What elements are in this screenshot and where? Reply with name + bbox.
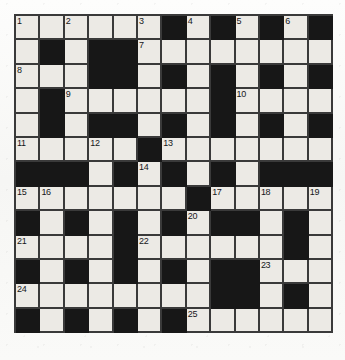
grid-cell-open[interactable]: 12 — [89, 138, 113, 162]
grid-cell-open[interactable]: 22 — [138, 236, 162, 260]
grid-cell-open[interactable] — [89, 284, 113, 308]
grid-cell-open[interactable] — [40, 138, 64, 162]
grid-cell-open[interactable] — [89, 236, 113, 260]
grid-cell-open[interactable] — [211, 309, 235, 333]
grid-cell-open[interactable]: 8 — [16, 65, 40, 89]
grid-cell-open[interactable] — [16, 114, 40, 138]
grid-cell-open[interactable] — [65, 40, 89, 64]
grid-cell-open[interactable] — [236, 187, 260, 211]
grid-cell-open[interactable]: 11 — [16, 138, 40, 162]
grid-cell-open[interactable] — [236, 114, 260, 138]
grid-cell-open[interactable] — [236, 309, 260, 333]
grid-cell-open[interactable]: 15 — [16, 187, 40, 211]
grid-cell-open[interactable] — [260, 138, 284, 162]
grid-cell-open[interactable] — [211, 40, 235, 64]
grid-cell-open[interactable] — [236, 40, 260, 64]
grid-cell-open[interactable] — [284, 114, 308, 138]
grid-cell-open[interactable] — [138, 284, 162, 308]
grid-cell-open[interactable]: 19 — [309, 187, 333, 211]
grid-cell-open[interactable] — [114, 138, 138, 162]
grid-cell-open[interactable] — [138, 260, 162, 284]
grid-cell-open[interactable]: 9 — [65, 89, 89, 113]
grid-cell-open[interactable] — [162, 236, 186, 260]
grid-cell-open[interactable] — [309, 211, 333, 235]
grid-cell-open[interactable]: 2 — [65, 16, 89, 40]
grid-cell-open[interactable]: 6 — [284, 16, 308, 40]
grid-cell-open[interactable] — [89, 309, 113, 333]
grid-cell-open[interactable] — [260, 89, 284, 113]
grid-cell-open[interactable]: 25 — [187, 309, 211, 333]
grid-cell-open[interactable] — [187, 236, 211, 260]
grid-cell-open[interactable] — [40, 309, 64, 333]
grid-cell-open[interactable] — [187, 138, 211, 162]
grid-cell-open[interactable]: 24 — [16, 284, 40, 308]
grid-cell-open[interactable] — [40, 65, 64, 89]
grid-cell-open[interactable] — [260, 40, 284, 64]
grid-cell-open[interactable] — [114, 284, 138, 308]
grid-cell-open[interactable]: 14 — [138, 162, 162, 186]
grid-cell-open[interactable] — [40, 211, 64, 235]
grid-cell-open[interactable] — [16, 89, 40, 113]
grid-cell-open[interactable] — [211, 236, 235, 260]
grid-cell-open[interactable]: 18 — [260, 187, 284, 211]
grid-cell-open[interactable] — [309, 284, 333, 308]
grid-cell-open[interactable] — [138, 114, 162, 138]
grid-cell-open[interactable] — [89, 187, 113, 211]
grid-cell-open[interactable]: 20 — [187, 211, 211, 235]
grid-cell-open[interactable] — [309, 89, 333, 113]
grid-cell-open[interactable] — [236, 162, 260, 186]
grid-cell-open[interactable] — [138, 65, 162, 89]
grid-cell-open[interactable]: 1 — [16, 16, 40, 40]
grid-cell-open[interactable] — [309, 138, 333, 162]
grid-cell-open[interactable] — [260, 236, 284, 260]
grid-cell-open[interactable] — [187, 89, 211, 113]
grid-cell-open[interactable] — [138, 309, 162, 333]
grid-cell-open[interactable]: 13 — [162, 138, 186, 162]
grid-cell-open[interactable] — [89, 162, 113, 186]
grid-cell-open[interactable] — [65, 65, 89, 89]
grid-cell-open[interactable] — [187, 65, 211, 89]
grid-cell-open[interactable] — [138, 211, 162, 235]
grid-cell-open[interactable] — [65, 284, 89, 308]
grid-cell-open[interactable] — [187, 40, 211, 64]
grid-cell-open[interactable]: 5 — [236, 16, 260, 40]
grid-cell-open[interactable] — [260, 284, 284, 308]
grid-cell-open[interactable] — [187, 114, 211, 138]
grid-cell-open[interactable] — [309, 236, 333, 260]
grid-cell-open[interactable]: 7 — [138, 40, 162, 64]
grid-cell-open[interactable] — [89, 16, 113, 40]
grid-cell-open[interactable] — [236, 65, 260, 89]
grid-cell-open[interactable] — [89, 89, 113, 113]
grid-cell-open[interactable] — [65, 187, 89, 211]
grid-cell-open[interactable]: 3 — [138, 16, 162, 40]
grid-cell-open[interactable] — [162, 89, 186, 113]
grid-cell-open[interactable]: 16 — [40, 187, 64, 211]
grid-cell-open[interactable]: 4 — [187, 16, 211, 40]
grid-cell-open[interactable] — [309, 40, 333, 64]
grid-cell-open[interactable] — [162, 187, 186, 211]
grid-cell-open[interactable] — [114, 89, 138, 113]
crossword-grid[interactable]: 1234567891011121314151617181920212223242… — [14, 14, 333, 333]
grid-cell-open[interactable] — [65, 114, 89, 138]
grid-cell-open[interactable] — [40, 260, 64, 284]
grid-cell-open[interactable] — [284, 309, 308, 333]
grid-cell-open[interactable] — [260, 211, 284, 235]
grid-cell-open[interactable] — [236, 138, 260, 162]
grid-cell-open[interactable] — [89, 260, 113, 284]
grid-cell-open[interactable] — [162, 40, 186, 64]
grid-cell-open[interactable] — [114, 16, 138, 40]
grid-cell-open[interactable] — [162, 284, 186, 308]
grid-cell-open[interactable] — [309, 260, 333, 284]
grid-cell-open[interactable] — [16, 40, 40, 64]
grid-cell-open[interactable] — [211, 138, 235, 162]
grid-cell-open[interactable] — [309, 309, 333, 333]
grid-cell-open[interactable] — [284, 65, 308, 89]
grid-cell-open[interactable] — [40, 284, 64, 308]
grid-cell-open[interactable] — [89, 211, 113, 235]
grid-cell-open[interactable]: 23 — [260, 260, 284, 284]
grid-cell-open[interactable] — [284, 40, 308, 64]
grid-cell-open[interactable] — [284, 89, 308, 113]
grid-cell-open[interactable]: 21 — [16, 236, 40, 260]
grid-cell-open[interactable]: 17 — [211, 187, 235, 211]
grid-cell-open[interactable] — [114, 187, 138, 211]
